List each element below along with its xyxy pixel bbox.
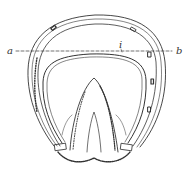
nail-hole	[148, 52, 151, 57]
label-i: i	[119, 39, 122, 50]
left-collateral-groove	[62, 115, 72, 135]
hoof-wall-inner-line	[47, 57, 142, 142]
hoof-sole-outline	[43, 54, 146, 143]
frog-outline	[70, 78, 118, 152]
label-b: b	[176, 45, 182, 56]
left-heel	[55, 143, 67, 150]
nail-hole	[148, 107, 151, 112]
frog-central-sulcus	[87, 112, 101, 152]
nail-hole	[51, 25, 56, 30]
frog-right-shading	[100, 86, 115, 150]
shoe-left-hatching	[35, 58, 37, 112]
heel-bulbs	[58, 152, 130, 162]
nail-hole	[151, 79, 154, 84]
nail-hole	[131, 27, 137, 32]
shoe-inner-edge	[38, 24, 156, 146]
right-collateral-groove	[116, 115, 126, 135]
label-a: a	[7, 45, 13, 56]
right-heel	[121, 143, 133, 150]
frog-left-shading	[73, 92, 85, 150]
horseshoe-diagram: a b i	[0, 0, 193, 178]
